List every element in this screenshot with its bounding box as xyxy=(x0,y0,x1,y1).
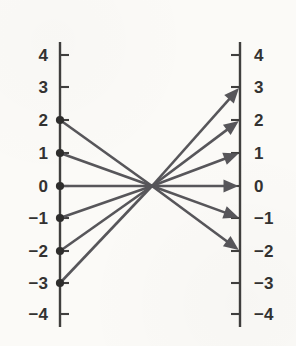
rays-layer xyxy=(60,97,231,283)
domain-axis-label--2: −2 xyxy=(29,242,48,261)
mapping-diagram-figure: 43210−1−2−3−443210−1−2−3−4 xyxy=(0,0,296,346)
domain-axis-point-0 xyxy=(56,182,64,190)
domain-axis-label-3: 3 xyxy=(39,78,48,97)
domain-axis-label--1: −1 xyxy=(29,209,48,228)
arrow-head--2 xyxy=(223,236,239,250)
arrow-head-0 xyxy=(224,180,239,193)
range-axis-label-3: 3 xyxy=(254,78,263,97)
range-axis-label-1: 1 xyxy=(254,144,263,163)
domain-axis-label-0: 0 xyxy=(39,177,48,196)
ray-in-1 xyxy=(60,153,152,186)
range-axis-label-2: 2 xyxy=(254,111,263,130)
ray-in-2 xyxy=(60,120,152,186)
range-axis-label--4: −4 xyxy=(254,305,274,324)
domain-axis-point-1 xyxy=(56,149,64,157)
arrow-head-2 xyxy=(223,121,239,135)
ray-out-3 xyxy=(152,97,231,186)
range-axis-label--2: −2 xyxy=(254,242,273,261)
domain-axis-point--3 xyxy=(56,279,64,287)
domain-axis-label--3: −3 xyxy=(29,274,48,293)
mapping-diagram-svg: 43210−1−2−3−443210−1−2−3−4 xyxy=(0,0,296,346)
range-axis-label-4: 4 xyxy=(254,46,264,65)
range-axis-label--3: −3 xyxy=(254,274,273,293)
arrow-head-1 xyxy=(222,153,238,165)
ray-out--1 xyxy=(152,186,227,213)
ray-out-2 xyxy=(152,128,229,186)
domain-axis-label--4: −4 xyxy=(29,305,49,324)
range-axis-label--1: −1 xyxy=(254,209,273,228)
domain-axis-label-1: 1 xyxy=(39,144,48,163)
ray-out--2 xyxy=(152,186,229,243)
domain-axis-point--2 xyxy=(56,247,64,255)
domain-axis-point-2 xyxy=(56,116,64,124)
arrow-heads-layer xyxy=(222,88,239,250)
domain-axis-label-2: 2 xyxy=(39,111,48,130)
range-axis-label-0: 0 xyxy=(254,177,263,196)
ray-in--3 xyxy=(60,186,152,283)
arrow-head--1 xyxy=(222,206,238,218)
domain-axis-label-4: 4 xyxy=(39,46,49,65)
domain-axis-point--1 xyxy=(56,214,64,222)
ray-in--2 xyxy=(60,186,152,251)
